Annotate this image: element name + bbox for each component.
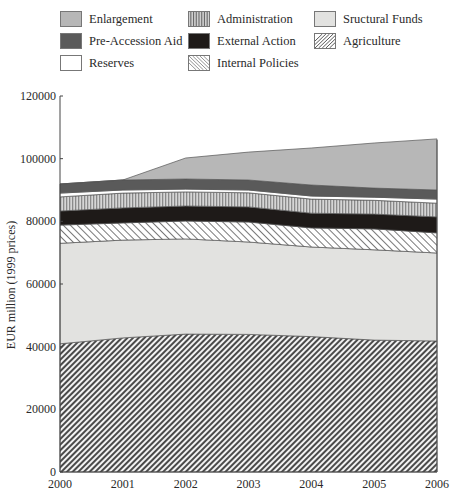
legend-label: Sructural Funds [343, 12, 423, 27]
area-sructural-funds [60, 239, 437, 344]
area-layers [60, 139, 437, 472]
y-ticks: 020000400006000080000100000120000 [20, 89, 63, 479]
x-ticks: 2000200120022003200420052006 [48, 477, 449, 491]
y-tick-label: 100000 [20, 152, 56, 166]
pre-accession-swatch-icon [60, 33, 82, 49]
legend-item-pre-accession-aid: Pre-Accession Aid [60, 32, 182, 50]
internal-policies-swatch-icon [188, 55, 210, 71]
x-tick-label: 2000 [48, 477, 72, 491]
legend-item-internal-policies: Internal Policies [188, 54, 299, 72]
legend-item-enlargement: Enlargement [60, 10, 153, 28]
agriculture-swatch-icon [314, 33, 336, 49]
legend-label: Enlargement [89, 12, 153, 27]
administration-swatch-icon [188, 11, 210, 27]
legend-label: External Action [217, 34, 296, 49]
external-action-swatch-icon [188, 33, 210, 49]
legend-item-structural-funds: Sructural Funds [314, 10, 423, 28]
reserves-swatch-icon [60, 55, 82, 71]
chart-canvas: 020000400006000080000100000120000 200020… [0, 80, 452, 493]
enlargement-swatch-icon [60, 11, 82, 27]
y-tick-label: 120000 [20, 89, 56, 103]
area-agriculture [60, 334, 437, 472]
x-tick-label: 2004 [299, 477, 323, 491]
legend-item-agriculture: Agriculture [314, 32, 401, 50]
y-axis-label: EUR million (1999 prices) [4, 221, 18, 349]
y-tick-label: 20000 [26, 402, 56, 416]
legend-item-external-action: External Action [188, 32, 296, 50]
x-tick-label: 2003 [237, 477, 261, 491]
legend-label: Administration [217, 12, 293, 27]
legend-label: Pre-Accession Aid [89, 34, 182, 49]
x-tick-label: 2001 [111, 477, 135, 491]
legend-label: Reserves [89, 56, 134, 71]
y-tick-label: 80000 [26, 214, 56, 228]
y-tick-label: 40000 [26, 340, 56, 354]
legend-item-reserves: Reserves [60, 54, 134, 72]
legend-item-administration: Administration [188, 10, 293, 28]
y-tick-label: 60000 [26, 277, 56, 291]
x-tick-label: 2002 [174, 477, 198, 491]
legend-label: Agriculture [343, 34, 401, 49]
legend-label: Internal Policies [217, 56, 299, 71]
stacked-area-chart: 020000400006000080000100000120000 200020… [0, 80, 452, 493]
chart-legend: Enlargement Administration Sructural Fun… [0, 0, 452, 80]
structural-funds-swatch-icon [314, 11, 336, 27]
x-tick-label: 2006 [425, 477, 449, 491]
x-tick-label: 2005 [362, 477, 386, 491]
